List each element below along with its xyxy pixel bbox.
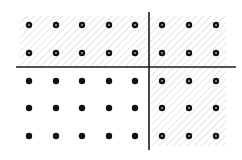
ring-dot-center [188, 52, 190, 54]
ring-dot-center [134, 52, 136, 54]
solid-dot [26, 78, 32, 84]
solid-dot [53, 78, 59, 84]
solid-dot [132, 133, 138, 139]
ring-dot-center [215, 107, 217, 109]
solid-dot [132, 78, 138, 84]
ring-dot-center [188, 24, 190, 26]
ring-dot-center [108, 52, 110, 54]
ring-dot-center [188, 107, 190, 109]
ring-dot-center [81, 52, 83, 54]
ring-dot-center [108, 24, 110, 26]
solid-dot [106, 133, 112, 139]
ring-dot-center [188, 135, 190, 137]
ring-dot-center [55, 52, 57, 54]
solid-dot [26, 105, 32, 111]
ring-dot-center [55, 24, 57, 26]
solid-dot [79, 133, 85, 139]
ring-dot-center [28, 52, 30, 54]
ring-dot-center [28, 24, 30, 26]
ring-dot-center [134, 24, 136, 26]
ring-dot-center [161, 24, 163, 26]
dot-grid-diagram [0, 0, 242, 160]
solid-dot [132, 105, 138, 111]
ring-dot-center [161, 135, 163, 137]
solid-dot [79, 105, 85, 111]
solid-dot [79, 78, 85, 84]
solid-dot [26, 133, 32, 139]
ring-dot-center [161, 52, 163, 54]
ring-dot-center [188, 80, 190, 82]
solid-dot [53, 105, 59, 111]
solid-dot [53, 133, 59, 139]
ring-dot-center [215, 24, 217, 26]
shaded-region-top-band [20, 16, 226, 66]
ring-dot-center [215, 52, 217, 54]
ring-dot-center [215, 80, 217, 82]
solid-dot [106, 78, 112, 84]
solid-dot [106, 105, 112, 111]
ring-dot-center [215, 135, 217, 137]
ring-dot-center [161, 80, 163, 82]
shaded-regions [20, 16, 226, 146]
ring-dot-center [81, 24, 83, 26]
ring-dot-center [161, 107, 163, 109]
